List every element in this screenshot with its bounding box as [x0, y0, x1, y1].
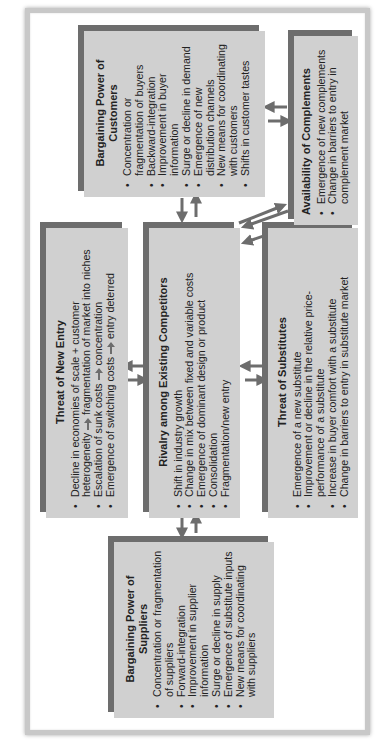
list-item: New means for coordinating with customer… — [216, 39, 240, 187]
list-item: Fragmentation/new entry — [220, 236, 232, 508]
right-arrow-icon — [107, 342, 115, 354]
box-threat-of-substitutes: Threat of Substitutes Emergence of a new… — [268, 228, 358, 518]
list-item: Surge or decline in supply — [211, 550, 223, 708]
list-item: Improvement in supplier information — [187, 550, 211, 708]
list-item: Consolidation — [208, 236, 220, 508]
box-title: Threat of Substitutes — [276, 236, 289, 508]
list-item: Shifts in customer tastes — [240, 39, 252, 187]
box-title: Rivalry among Existing Competitors — [157, 236, 170, 508]
item-list: Decline in economies of scale + customer… — [70, 236, 117, 508]
box-title: Availability of Complements — [300, 44, 313, 215]
box-title: Bargaining Power of Suppliers — [124, 550, 149, 708]
list-item: Surge or decline in demand — [181, 39, 193, 187]
list-item: Decline in economies of scale + customer… — [70, 236, 94, 508]
list-item: Emergence of substitute inputs — [223, 550, 235, 708]
list-item: Change in barriers to entry in substitut… — [339, 236, 351, 508]
item-list: Concentration or fragmentation of suppli… — [152, 550, 258, 708]
box-bargaining-power-suppliers: Bargaining Power of Suppliers Concentrat… — [114, 542, 274, 718]
list-item: New means for coordinating with supplier… — [235, 550, 259, 708]
list-item: Emergence of new distribution channels — [193, 39, 217, 187]
list-item: Improvement or decline in the relative p… — [303, 236, 327, 508]
item-list: Shift in industry growth Change in mix b… — [173, 236, 232, 508]
box-title: Bargaining Power of Customers — [94, 39, 119, 187]
box-title: Threat of New Entry — [54, 236, 67, 508]
list-item: Concentration or fragmentation of suppli… — [152, 550, 176, 708]
box-rivalry-among-competitors: Rivalry among Existing Competitors Shift… — [149, 228, 240, 518]
box-availability-of-complements: Availability of Complements Emergence of… — [294, 36, 358, 225]
right-arrow-icon — [95, 368, 103, 380]
list-item: Improvement in buyer information — [157, 39, 181, 187]
right-arrow-icon — [84, 418, 92, 430]
item-list: Emergence of a new substitute Improvemen… — [292, 236, 351, 508]
diagram-canvas: Bargaining Power of Suppliers Concentrat… — [0, 0, 389, 747]
list-item: Emergence of switching costs entry deter… — [105, 236, 117, 508]
item-list: Emergence of new complements Change in b… — [316, 44, 351, 215]
box-bargaining-power-customers: Bargaining Power of Customers Concentrat… — [84, 31, 265, 197]
list-item: Increase in buyer comfort with a substit… — [327, 236, 339, 508]
list-item: Concentration or fragmentation of buyers — [122, 39, 146, 187]
item-list: Concentration or fragmentation of buyers… — [122, 39, 252, 187]
box-threat-of-new-entry: Threat of New Entry Decline in economies… — [46, 228, 128, 518]
list-item: Change in barriers to entry in complemen… — [327, 44, 351, 215]
